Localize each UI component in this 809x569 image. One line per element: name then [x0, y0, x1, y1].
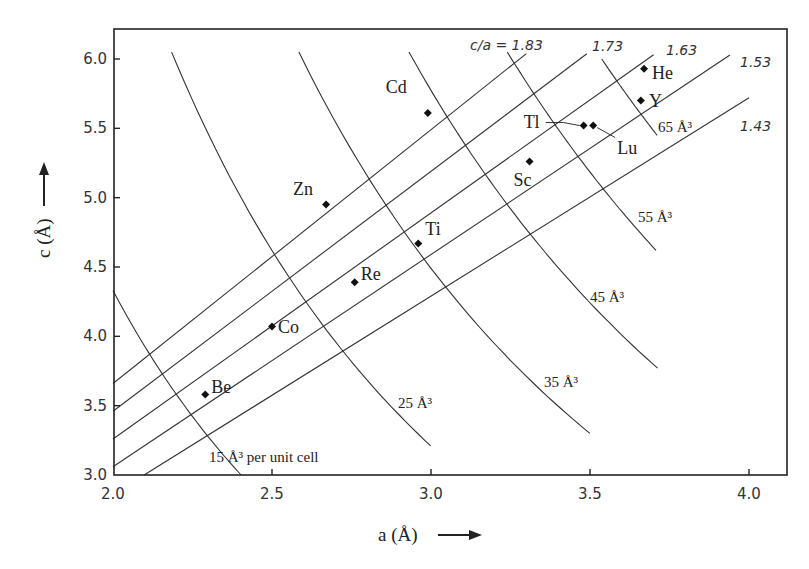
data-point-ti: Ti: [414, 219, 440, 247]
ratio-label-1.43: 1.43: [740, 118, 771, 134]
ratio-label-1.83: c/a = 1.83: [470, 37, 543, 53]
y-axis-label: c (Å): [33, 218, 55, 258]
point-label: Co: [278, 317, 299, 337]
data-point-cd: Cd: [386, 77, 432, 117]
y-tick-label: 5.0: [83, 189, 107, 207]
ratio-label-1.53: 1.53: [740, 54, 771, 70]
data-point-re: Re: [351, 264, 381, 286]
element-data-points: BeCoReTiZnCdScTlLuYHe: [201, 63, 673, 399]
point-label: Lu: [617, 138, 637, 158]
ratio-line-1.83: [113, 54, 526, 384]
point-label: Sc: [514, 170, 532, 190]
diamond-marker-icon: [580, 122, 588, 130]
point-label: Y: [649, 91, 662, 111]
y-tick-label: 6.0: [83, 50, 107, 68]
volume-label-15: 15 Å³ per unit cell: [209, 449, 318, 465]
data-point-lu: Lu: [589, 122, 637, 158]
x-tick-label: 3.5: [578, 485, 602, 503]
data-point-sc: Sc: [514, 158, 534, 190]
diamond-marker-icon: [322, 201, 330, 209]
diamond-marker-icon: [637, 97, 645, 105]
curve-labels: 15 Å³ per unit cell25 Å³35 Å³45 Å³55 Å³6…: [209, 37, 771, 465]
diamond-marker-icon: [414, 239, 422, 247]
point-label: Zn: [293, 179, 313, 199]
x-axis-title: a (Å): [378, 524, 482, 546]
hcp-lattice-parameter-chart: 2.02.53.03.54.0 3.03.54.04.55.05.56.0 Be…: [0, 0, 809, 569]
x-axis-ticks: 2.02.53.03.54.0: [101, 469, 761, 503]
x-axis-arrowhead-icon: [469, 530, 482, 540]
data-point-co: Co: [268, 317, 299, 337]
point-label: He: [652, 63, 673, 83]
c-over-a-lines: [113, 54, 749, 475]
data-point-he: He: [640, 63, 673, 83]
diamond-marker-icon: [640, 65, 648, 73]
point-label: Be: [211, 377, 231, 397]
y-axis-title: c (Å): [33, 162, 55, 258]
leader-line: [546, 123, 580, 126]
volume-label-65: 65 Å³: [658, 119, 693, 135]
diamond-marker-icon: [589, 122, 597, 130]
data-point-y: Y: [637, 91, 662, 111]
y-axis-arrowhead-icon: [39, 162, 49, 175]
diamond-marker-icon: [201, 391, 209, 399]
volume-label-55: 55 Å³: [638, 209, 673, 225]
ratio-line-1.73: [113, 54, 587, 411]
y-tick-label: 4.5: [83, 258, 107, 276]
volume-label-25: 25 Å³: [398, 395, 433, 411]
data-point-be: Be: [201, 377, 231, 399]
data-point-zn: Zn: [293, 179, 330, 209]
volume-label-45: 45 Å³: [590, 289, 625, 305]
x-tick-label: 3.0: [419, 485, 443, 503]
ratio-label-1.63: 1.63: [666, 42, 697, 58]
point-label: Cd: [386, 77, 407, 97]
point-label: Re: [361, 264, 381, 284]
x-tick-label: 2.5: [260, 485, 284, 503]
leader-line: [597, 128, 615, 138]
x-tick-label: 4.0: [737, 485, 761, 503]
y-tick-label: 3.5: [83, 397, 107, 415]
y-tick-label: 3.0: [83, 466, 107, 484]
plot-frame: [114, 29, 787, 475]
x-axis-label: a (Å): [378, 524, 418, 546]
diamond-marker-icon: [424, 109, 432, 117]
volume-label-35: 35 Å³: [544, 374, 579, 390]
point-label: Tl: [524, 112, 540, 132]
diamond-marker-icon: [351, 278, 359, 286]
data-point-tl: Tl: [524, 112, 588, 132]
point-label: Ti: [425, 219, 440, 239]
ratio-label-1.73: 1.73: [592, 38, 623, 54]
diamond-marker-icon: [526, 158, 534, 166]
y-tick-label: 4.0: [83, 327, 107, 345]
x-tick-label: 2.0: [101, 485, 125, 503]
y-tick-label: 5.5: [83, 119, 107, 137]
